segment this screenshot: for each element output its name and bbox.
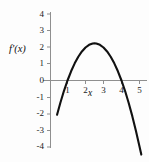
y-tick-label-neg1: -1 (29, 93, 44, 102)
y-tick-label-2: 2 (32, 43, 44, 52)
y-tick-label-0: 0 (32, 76, 44, 85)
plot-area (0, 0, 149, 162)
x-axis-label: x (88, 88, 92, 98)
y-tick-label-neg2: -2 (29, 109, 44, 118)
x-tick-label-4: 4 (116, 86, 128, 95)
x-tick-marks (68, 81, 140, 85)
y-tick-label-neg4: -4 (29, 142, 44, 151)
y-tick-label-neg3: -3 (29, 126, 44, 135)
x-tick-label-5: 5 (134, 86, 146, 95)
derivative-curve (57, 43, 141, 154)
y-tick-label-3: 3 (32, 26, 44, 35)
y-tick-label-1: 1 (32, 59, 44, 68)
figure-container: 4 3 2 1 0 -1 -2 -3 -4 1 2 3 4 5 f'(x) x (0, 0, 149, 162)
x-tick-label-1: 1 (62, 86, 74, 95)
x-tick-label-3: 3 (98, 86, 110, 95)
y-axis-label: f'(x) (9, 43, 26, 54)
y-tick-label-4: 4 (32, 10, 44, 19)
